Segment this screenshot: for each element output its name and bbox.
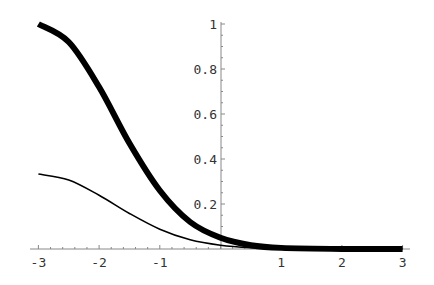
x-tick-label: 1 (277, 255, 285, 270)
y-tick-labels: 0.20.40.60.81 (194, 17, 218, 212)
y-ticks (221, 24, 225, 238)
x-tick-label: 2 (338, 255, 346, 270)
line-chart: -3-2-1123 0.20.40.60.81 (0, 0, 434, 285)
y-tick-label: 0.2 (194, 197, 217, 212)
y-tick-label: 1 (209, 17, 217, 32)
x-tick-label: -1 (152, 255, 168, 270)
y-tick-label: 0.8 (194, 62, 217, 77)
axes (30, 22, 410, 249)
x-tick-label: -2 (91, 255, 107, 270)
x-tick-labels: -3-2-1123 (31, 255, 407, 270)
y-tick-label: 0.6 (194, 107, 217, 122)
y-tick-label: 0.4 (194, 152, 218, 167)
x-tick-label: -3 (31, 255, 47, 270)
x-tick-label: 3 (399, 255, 407, 270)
chart-container: -3-2-1123 0.20.40.60.81 (0, 0, 434, 285)
